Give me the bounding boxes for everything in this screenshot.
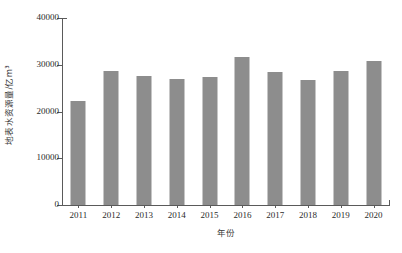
y-tick-label: 20000 (37, 106, 60, 116)
bar-slot (128, 18, 161, 205)
x-tick-mark (308, 205, 309, 208)
x-tick-mark (242, 205, 243, 208)
bar-slot (95, 18, 128, 205)
y-tick-label: 40000 (37, 12, 60, 22)
y-tick-label: 30000 (37, 59, 60, 69)
bar-2011 (71, 101, 86, 205)
x-tick-mark (341, 205, 342, 208)
x-tick-mark (78, 205, 79, 208)
bars-layer (62, 18, 390, 205)
y-axis-title-text: 地表水资源量/亿m³ (2, 65, 14, 145)
bar-slot (292, 18, 325, 205)
x-tick-label-2020: 2020 (354, 210, 394, 220)
bar-2012 (104, 71, 119, 205)
x-axis-title: 年份 (62, 226, 390, 238)
bar-2014 (169, 79, 184, 205)
bar-2013 (136, 76, 151, 205)
x-tick-mark (374, 205, 375, 208)
bar-slot (259, 18, 292, 205)
bar-slot (324, 18, 357, 205)
x-tick-mark (210, 205, 211, 208)
y-tick-label: 10000 (37, 152, 60, 162)
bar-slot (357, 18, 390, 205)
plot-area: 010000200003000040000 201120122013201420… (62, 18, 390, 205)
bar-2019 (333, 71, 348, 205)
bar-2017 (268, 72, 283, 205)
y-axis-title: 地表水资源量/亿m³ (0, 0, 16, 210)
bar-slot (160, 18, 193, 205)
bar-slot (193, 18, 226, 205)
bar-2018 (300, 80, 315, 205)
x-tick-mark (111, 205, 112, 208)
bar-2016 (235, 57, 250, 205)
y-tick-label: 0 (55, 199, 60, 209)
bar-2020 (366, 61, 381, 205)
bar-2015 (202, 77, 217, 205)
x-tick-mark (144, 205, 145, 208)
bar-slot (62, 18, 95, 205)
x-tick-mark (177, 205, 178, 208)
bar-chart-figure: 地表水资源量/亿m³ 010000200003000040000 2011201… (0, 0, 402, 253)
x-tick-mark (275, 205, 276, 208)
bar-slot (226, 18, 259, 205)
